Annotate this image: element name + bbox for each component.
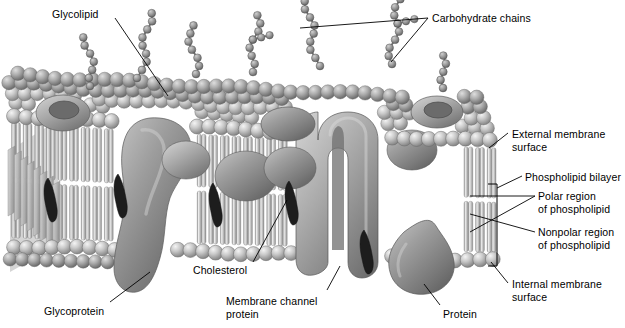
carbohydrate-bead — [266, 32, 273, 39]
carbohydrate-bead — [439, 84, 447, 92]
carbohydrate-bead — [79, 34, 87, 42]
carbohydrate-bead — [249, 36, 256, 43]
carbohydrate-bead — [254, 11, 262, 19]
carbohydrate-bead — [248, 52, 256, 60]
label-internal-membrane: Internal membrane surface — [512, 278, 602, 303]
carbohydrate-bead — [258, 34, 265, 41]
carbohydrate-bead — [251, 60, 259, 68]
leader-bilayer — [497, 176, 522, 188]
label-cholesterol: Cholesterol — [193, 264, 247, 277]
carbohydrate-chains-group — [79, 0, 449, 92]
carbohydrate-bead — [316, 62, 324, 70]
label-phospholipid-bilayer: Phospholipid bilayer — [525, 171, 621, 184]
carbohydrate-bead — [395, 28, 403, 36]
carbohydrate-bead — [195, 62, 203, 70]
carbohydrate-bead — [246, 44, 254, 52]
surface-protein-ring-inner-b — [424, 102, 452, 118]
carbohydrate-bead — [188, 46, 196, 54]
carbohydrate-bead — [301, 5, 309, 13]
carbohydrate-bead — [312, 54, 320, 62]
carbohydrate-bead — [249, 68, 257, 76]
carbohydrate-bead — [306, 14, 314, 22]
carbohydrate-bead — [142, 50, 150, 58]
label-polar-region: Polar region of phospholipid — [538, 190, 610, 215]
membrane-diagram-page: GlycolipidCarbohydrate chainsExternal me… — [0, 0, 625, 328]
carbohydrate-bead — [256, 20, 264, 28]
carbohydrate-bead — [88, 66, 96, 74]
label-membrane-channel: Membrane channel protein — [226, 295, 318, 320]
carbohydrate-bead — [148, 9, 156, 17]
carbohydrate-bead — [391, 36, 399, 44]
carbohydrate-bead — [86, 50, 94, 58]
carbohydrate-bead — [311, 22, 319, 30]
carbohydrate-bead — [85, 74, 93, 82]
label-glycolipid: Glycolipid — [52, 8, 99, 21]
leader-channel — [327, 266, 340, 290]
label-nonpolar-region: Nonpolar region of phospholipid — [538, 226, 614, 251]
carbohydrate-bead — [402, 18, 409, 25]
carbohydrate-bead — [442, 60, 450, 68]
surface-protein-cap-b — [261, 107, 315, 141]
carbohydrate-bead — [190, 22, 198, 30]
carbohydrate-bead — [143, 26, 151, 34]
carbohydrate-bead — [148, 17, 156, 25]
carbohydrate-bead — [139, 34, 147, 42]
carbohydrate-bead — [187, 30, 195, 38]
carbohydrate-bead — [185, 38, 193, 46]
carbohydrate-bead — [310, 30, 318, 38]
carbohydrate-bead — [192, 70, 200, 78]
carbohydrate-bead — [437, 76, 445, 84]
surface-protein-ring-inner — [49, 101, 79, 119]
carbohydrate-bead — [391, 3, 399, 11]
carbohydrate-bead — [301, 0, 309, 5]
carbohydrate-bead — [133, 74, 141, 82]
label-glycoprotein: Glycoprotein — [44, 305, 104, 318]
label-protein: Protein — [443, 308, 477, 321]
carbohydrate-bead — [306, 38, 314, 46]
carbohydrate-bead — [385, 52, 393, 60]
leader-internal — [491, 262, 508, 283]
carbohydrate-bead — [86, 82, 94, 90]
label-external-membrane: External membrane surface — [512, 128, 605, 153]
carbohydrate-bead — [90, 58, 98, 66]
carbohydrate-bead — [194, 54, 202, 62]
carbohydrate-bead — [439, 52, 447, 60]
carbohydrate-bead — [307, 46, 315, 54]
carbohydrate-bead — [139, 42, 147, 50]
carbohydrate-bead — [386, 44, 394, 52]
label-carbohydrate-chains: Carbohydrate chains — [432, 12, 531, 25]
carbohydrate-bead — [81, 42, 89, 50]
carbohydrate-bead — [439, 68, 447, 76]
carbohydrate-bead — [390, 12, 398, 20]
integral-protein-c — [162, 141, 210, 179]
carbohydrate-bead — [138, 66, 146, 74]
